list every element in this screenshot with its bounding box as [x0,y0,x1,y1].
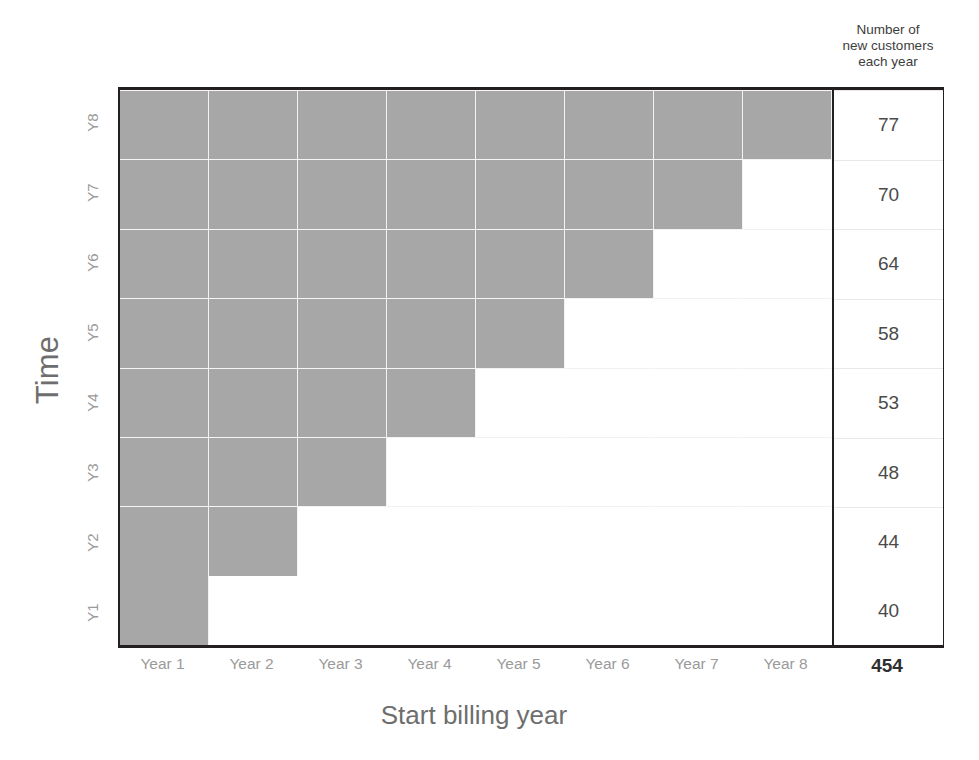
heatmap-cell-y2-col7 [654,506,743,575]
heatmap-cell-y3-col1 [120,437,209,506]
heatmap-cell-y5-col5 [476,298,565,367]
y-tick-y8: Y8 [72,87,112,157]
value-cell-y3: 48 [834,438,943,508]
chart-plot-frame: 4044485358647077 [118,87,944,648]
heatmap-cell-y7-col3 [298,159,387,228]
heatmap-cell-y8-col2 [209,90,298,159]
y-tick-y7: Y7 [72,157,112,227]
value-cell-y8: 77 [834,90,943,160]
values-header-line-3: each year [832,54,944,70]
heatmap-row-y1 [120,576,832,645]
heatmap-cell-y3-col7 [654,437,743,506]
heatmap-cell-y4-col5 [476,368,565,437]
y-tick-label: Y3 [83,464,100,482]
value-cell-y2: 44 [834,507,943,577]
heatmap-cell-y7-col5 [476,159,565,228]
heatmap-cell-y6-col3 [298,229,387,298]
heatmap-cell-y6-col5 [476,229,565,298]
y-tick-y2: Y2 [72,508,112,578]
y-tick-label: Y8 [83,113,100,131]
x-tick-year-3: Year 3 [296,655,385,673]
heatmap-cell-y8-col1 [120,90,209,159]
y-axis-tick-labels: Y1 Y2 Y3 Y4 Y5 Y6 Y7 Y8 [72,87,112,648]
value-cell-y6: 64 [834,229,943,299]
new-customers-total: 454 [832,655,942,677]
heatmap-cell-y8-col3 [298,90,387,159]
heatmap-cell-y8-col7 [654,90,743,159]
y-tick-y1: Y1 [72,578,112,648]
y-tick-y3: Y3 [72,438,112,508]
heatmap-cell-y1-col6 [565,576,654,645]
y-axis-title: Time [18,280,78,460]
value-cell-y1: 40 [834,577,943,646]
heatmap-cell-y4-col4 [387,368,476,437]
heatmap-cell-y1-col2 [209,576,298,645]
heatmap-cell-y6-col4 [387,229,476,298]
y-tick-label: Y4 [83,393,100,411]
heatmap-cell-y5-col4 [387,298,476,367]
y-axis-title-text: Time [30,336,66,405]
heatmap-cell-y1-col3 [298,576,387,645]
x-axis-title: Start billing year [118,700,830,731]
heatmap-cell-y2-col8 [743,506,832,575]
heatmap-row-y8 [120,90,832,159]
heatmap-cell-y2-col3 [298,506,387,575]
y-tick-y5: Y5 [72,297,112,367]
heatmap-row-y3 [120,437,832,506]
heatmap-cell-y2-col1 [120,506,209,575]
values-header-line-1: Number of [832,22,944,38]
cohort-heatmap-grid [120,90,832,645]
heatmap-cell-y2-col5 [476,506,565,575]
heatmap-row-y2 [120,506,832,575]
heatmap-cell-y4-col3 [298,368,387,437]
heatmap-cell-y3-col4 [387,437,476,506]
y-tick-y4: Y4 [72,368,112,438]
y-tick-label: Y6 [83,253,100,271]
heatmap-cell-y5-col2 [209,298,298,367]
heatmap-cell-y1-col7 [654,576,743,645]
heatmap-cell-y5-col6 [565,298,654,367]
heatmap-cell-y4-col8 [743,368,832,437]
heatmap-cell-y7-col8 [743,159,832,228]
values-column-header: Number of new customers each year [832,22,944,70]
heatmap-cell-y6-col2 [209,229,298,298]
heatmap-cell-y4-col7 [654,368,743,437]
heatmap-cell-y6-col6 [565,229,654,298]
y-tick-label: Y1 [83,604,100,622]
heatmap-cell-y2-col2 [209,506,298,575]
heatmap-row-y5 [120,298,832,367]
heatmap-cell-y3-col2 [209,437,298,506]
y-tick-label: Y2 [83,534,100,552]
heatmap-cell-y8-col8 [743,90,832,159]
heatmap-cell-y1-col1 [120,576,209,645]
x-tick-year-7: Year 7 [652,655,741,673]
heatmap-cell-y6-col7 [654,229,743,298]
heatmap-row-y7 [120,159,832,228]
heatmap-cell-y8-col4 [387,90,476,159]
heatmap-cell-y5-col8 [743,298,832,367]
heatmap-cell-y4-col1 [120,368,209,437]
value-cell-y5: 58 [834,299,943,369]
value-cell-y7: 70 [834,160,943,230]
heatmap-cell-y1-col5 [476,576,565,645]
heatmap-row-y6 [120,229,832,298]
heatmap-cell-y7-col2 [209,159,298,228]
values-header-line-2: new customers [832,38,944,54]
heatmap-cell-y3-col5 [476,437,565,506]
heatmap-cell-y4-col6 [565,368,654,437]
heatmap-cell-y5-col1 [120,298,209,367]
heatmap-cell-y3-col3 [298,437,387,506]
heatmap-cell-y2-col4 [387,506,476,575]
heatmap-cell-y8-col6 [565,90,654,159]
new-customers-values-column: 4044485358647077 [832,90,943,645]
x-tick-year-6: Year 6 [563,655,652,673]
heatmap-cell-y5-col7 [654,298,743,367]
heatmap-cell-y1-col4 [387,576,476,645]
heatmap-cell-y1-col8 [743,576,832,645]
y-tick-y6: Y6 [72,227,112,297]
heatmap-cell-y3-col6 [565,437,654,506]
x-tick-year-2: Year 2 [207,655,296,673]
heatmap-cell-y2-col6 [565,506,654,575]
x-axis-tick-labels: Year 1 Year 2 Year 3 Year 4 Year 5 Year … [118,655,830,673]
heatmap-cell-y7-col7 [654,159,743,228]
